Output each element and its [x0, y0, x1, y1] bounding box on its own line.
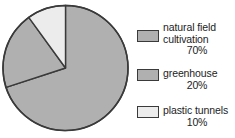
pie-chart-plot-area: [0, 0, 132, 138]
legend-value-plastic-tunnels: 10%: [163, 117, 231, 129]
legend-swatch-greenhouse: [137, 69, 159, 81]
legend-swatch-plastic-tunnels: [137, 106, 159, 118]
chart-legend: natural field cultivation 70% greenhouse…: [134, 0, 235, 138]
legend-label-line1: greenhouse: [163, 68, 235, 80]
pie-chart-figure: natural field cultivation 70% greenhouse…: [0, 0, 235, 138]
legend-value-greenhouse: 20%: [163, 80, 231, 92]
legend-label-line1: plastic tunnels: [163, 105, 235, 117]
legend-label-line1: natural field: [163, 22, 235, 34]
pie-chart-svg: [0, 0, 132, 138]
pie-slice-group: [3, 6, 128, 131]
legend-value-natural-field-cultivation: 70%: [163, 45, 231, 57]
legend-text-greenhouse: greenhouse 20%: [163, 68, 235, 91]
legend-swatch-natural-field-cultivation: [137, 30, 159, 42]
legend-text-plastic-tunnels: plastic tunnels 10%: [163, 105, 235, 128]
legend-text-natural-field-cultivation: natural field cultivation 70%: [163, 22, 235, 57]
